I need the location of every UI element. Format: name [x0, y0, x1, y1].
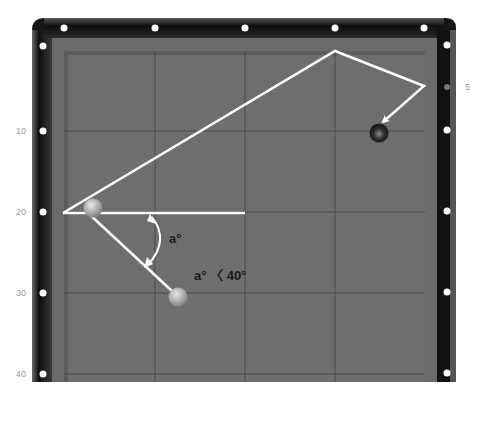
object-ball-2: [370, 124, 389, 143]
rail-label-10: 10: [16, 126, 26, 136]
cue-ball: [84, 199, 103, 218]
billiards-diagram: 10 20 30 40 5 a° a° 〈 40°: [0, 0, 484, 430]
table-svg: [0, 0, 484, 430]
angle-label: a°: [169, 231, 181, 246]
condition-label: a° 〈 40°: [194, 265, 246, 284]
rail-label-20: 20: [16, 207, 26, 217]
object-ball-1: [169, 288, 188, 307]
rail-label-30: 30: [16, 288, 26, 298]
rail-label-40: 40: [16, 369, 26, 379]
rail-label-5: 5: [465, 82, 470, 92]
